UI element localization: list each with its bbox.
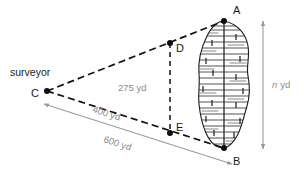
- dimension-label-ab: nyd: [272, 79, 290, 90]
- surveyor-label: surveyor: [10, 66, 51, 78]
- line-c-to-b: [47, 91, 224, 148]
- diagram-canvas: surveyor C A B D E 275 yd 400 yd 600 yd …: [0, 0, 304, 179]
- point-e-dot: [167, 130, 173, 136]
- point-b-dot: [221, 145, 227, 151]
- point-label-c: C: [31, 87, 39, 99]
- point-d-dot: [167, 40, 173, 46]
- point-label-b: B: [233, 155, 240, 167]
- dimension-label-de: 275 yd: [118, 82, 147, 93]
- lake-shape: [196, 21, 252, 148]
- point-label-d: D: [176, 42, 184, 54]
- point-label-e: E: [176, 121, 183, 133]
- point-c-dot: [44, 88, 50, 94]
- point-a-dot: [221, 18, 227, 24]
- line-c-to-a: [47, 21, 224, 91]
- dimension-label-cb: 600 yd: [102, 133, 133, 152]
- n-variable: n: [272, 79, 277, 90]
- yd-unit: yd: [280, 79, 290, 90]
- dimension-label-ce: 400 yd: [91, 103, 122, 122]
- point-label-a: A: [233, 4, 241, 16]
- surveyor-lake-diagram: surveyor C A B D E 275 yd 400 yd 600 yd …: [0, 0, 304, 179]
